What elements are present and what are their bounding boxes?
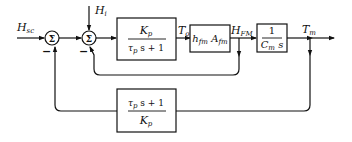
block-diagram: Σ Σ − − Hsc Hi Kp τp s + 1 To hfm Afm HF… [0, 0, 352, 142]
label-hfm: HFM [230, 24, 253, 38]
tm-feedback-right [176, 55, 310, 111]
summer-2-symbol: Σ [86, 34, 92, 44]
label-hi: Hi [94, 4, 107, 18]
summer-1-symbol: Σ [49, 34, 55, 44]
summer-1-minus: − [42, 45, 51, 58]
label-tm: Tm [302, 23, 316, 37]
integrator-numerator: 1 [269, 25, 275, 36]
label-to: To [178, 24, 190, 38]
label-hsc: Hsc [16, 21, 34, 35]
summer-2-minus: − [79, 45, 88, 58]
